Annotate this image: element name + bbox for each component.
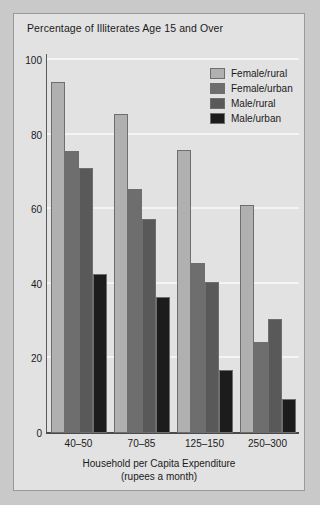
chart-title: Percentage of Illiterates Age 15 and Ove…: [27, 22, 223, 34]
bar[interactable]: [114, 114, 128, 433]
legend-item[interactable]: Female/rural: [210, 66, 310, 80]
x-tick-label: 40–50: [65, 438, 93, 449]
bar[interactable]: [156, 297, 170, 433]
bar[interactable]: [51, 82, 65, 433]
legend-label: Male/urban: [231, 113, 281, 124]
x-tick-label: 250–300: [248, 438, 287, 449]
legend-label: Male/rural: [231, 98, 275, 109]
legend-item[interactable]: Male/rural: [210, 96, 310, 110]
bar[interactable]: [93, 274, 107, 433]
legend-swatch-icon: [210, 113, 225, 124]
legend-label: Female/rural: [231, 68, 287, 79]
bar[interactable]: [240, 205, 254, 433]
x-tick-label: 125–150: [185, 438, 224, 449]
bar[interactable]: [205, 282, 219, 433]
bar[interactable]: [268, 319, 282, 433]
y-tick-label: 80: [31, 129, 42, 140]
y-tick-label: 20: [31, 353, 42, 364]
legend-swatch-icon: [210, 98, 225, 109]
legend-item[interactable]: Male/urban: [210, 111, 310, 125]
bar-group: [110, 60, 173, 433]
bar[interactable]: [282, 399, 296, 433]
bar[interactable]: [177, 150, 191, 433]
bar[interactable]: [128, 189, 142, 433]
x-tick-label: 70–85: [128, 438, 156, 449]
bar[interactable]: [191, 263, 205, 433]
chart-figure: Percentage of Illiterates Age 15 and Ove…: [13, 13, 305, 491]
bar[interactable]: [219, 370, 233, 433]
y-tick-label: 100: [25, 55, 42, 66]
bar-group: [47, 60, 110, 433]
y-tick-label: 0: [36, 428, 42, 439]
y-tick-label: 40: [31, 278, 42, 289]
legend-swatch-icon: [210, 83, 225, 94]
y-tick-label: 60: [31, 204, 42, 215]
bar[interactable]: [254, 342, 268, 433]
legend-swatch-icon: [210, 68, 225, 79]
bar[interactable]: [142, 219, 156, 433]
x-axis-title-sub: (rupees a month): [14, 470, 304, 483]
bar[interactable]: [65, 151, 79, 433]
x-axis-title: Household per Capita Expenditure (rupees…: [14, 457, 304, 483]
legend: Female/ruralFemale/urbanMale/ruralMale/u…: [210, 66, 310, 126]
legend-label: Female/urban: [231, 83, 293, 94]
x-axis-title-main: Household per Capita Expenditure: [14, 457, 304, 470]
legend-item[interactable]: Female/urban: [210, 81, 310, 95]
bar[interactable]: [79, 168, 93, 433]
